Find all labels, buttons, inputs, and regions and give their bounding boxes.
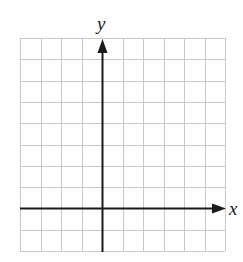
coordinate-plane xyxy=(0,0,243,262)
grid-lines xyxy=(20,38,226,252)
x-axis-arrow-icon xyxy=(212,204,226,214)
x-axis-label: x xyxy=(229,199,237,218)
y-axis-arrow-icon xyxy=(98,39,108,53)
y-axis-label: y xyxy=(97,14,105,33)
